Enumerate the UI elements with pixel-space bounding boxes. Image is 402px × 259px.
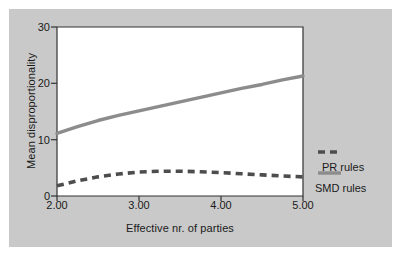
x-tick-label-2: 2.00 [37,199,77,211]
chart-figure: Mean disproportionality Effective nr. of… [0,0,402,259]
x-tick-label-4: 4.00 [201,199,241,211]
y-tick-label-10: 10 [22,134,50,146]
legend-label-smd-rules: SMD rules [315,182,366,194]
x-tick-label-5: 5.00 [283,199,323,211]
y-axis-title-container: Mean disproportionality [25,21,39,201]
x-axis-title: Effective nr. of parties [57,222,303,234]
x-axis-tick-marks [57,196,303,201]
legend-label-pr-rules: PR rules [322,161,364,173]
y-axis-title: Mean disproportionality [25,21,37,201]
y-tick-label-20: 20 [22,77,50,89]
y-tick-label-30: 30 [22,21,50,33]
y-axis-tick-marks [51,27,57,196]
plot-canvas [0,0,402,259]
x-tick-label-3: 3.00 [119,199,159,211]
